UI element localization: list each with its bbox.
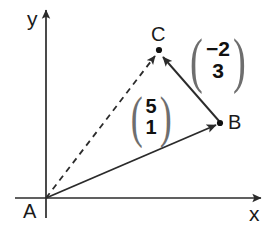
column-vector-bc-y: 3 <box>212 60 224 82</box>
bracket-open-paren-bc: ( <box>190 25 203 96</box>
point-dot-c <box>156 47 162 53</box>
bracket-close-paren-bc: ) <box>233 25 246 96</box>
vector-diagram: y x A B C ( −2 3 ) ( 5 1 ) <box>0 0 274 235</box>
point-label-a: A <box>23 201 36 221</box>
column-vector-ab: ( 5 1 ) <box>129 89 173 144</box>
point-label-c: C <box>151 24 165 44</box>
x-axis-label: x <box>249 203 260 224</box>
bracket-open-paren-ab: ( <box>131 83 143 150</box>
point-label-b: B <box>228 112 241 132</box>
column-vector-bc: ( −2 3 ) <box>191 31 245 89</box>
column-vector-bc-x: −2 <box>206 38 230 60</box>
point-dot-b <box>217 120 223 126</box>
column-vector-ab-values: 5 1 <box>145 96 156 138</box>
column-vector-bc-values: −2 3 <box>206 38 230 82</box>
column-vector-ab-y: 1 <box>145 117 156 138</box>
y-axis-label: y <box>27 8 38 29</box>
column-vector-ab-x: 5 <box>145 96 156 117</box>
bracket-close-paren-ab: ) <box>159 83 171 150</box>
